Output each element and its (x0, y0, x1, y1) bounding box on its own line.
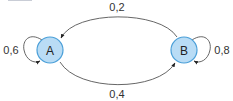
node-a: A (37, 37, 63, 63)
self-loop-label-b: 0,8 (214, 44, 229, 56)
self-loop-label-a: 0,6 (3, 44, 18, 56)
edge-label-b-to-a: 0,2 (109, 1, 124, 13)
node-b-label: B (180, 44, 188, 58)
self-loop-b: 0,8 (192, 37, 230, 62)
node-a-label: A (46, 44, 54, 58)
edge-label-a-to-b: 0,4 (109, 88, 124, 100)
edge-b-to-a: 0,2 (61, 1, 177, 38)
edge-a-to-b: 0,4 (60, 62, 175, 100)
node-b: B (171, 37, 197, 63)
markov-diagram: 0,2 0,4 0,6 0,8 A B (0, 0, 233, 101)
self-loop-a: 0,6 (3, 37, 42, 62)
